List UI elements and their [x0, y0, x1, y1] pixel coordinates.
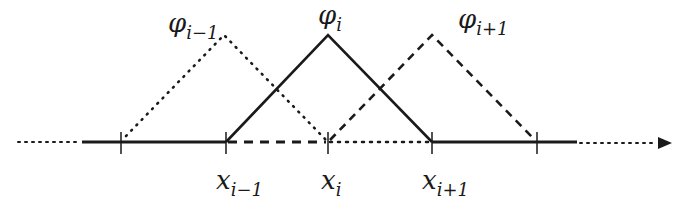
diagram-svg: φi−1 φi φi+1 xi−1 xi xi+1	[0, 0, 687, 212]
label-x-i-plus-1: xi+1	[422, 165, 469, 200]
phi-i-plus-1-curve	[330, 35, 535, 140]
label-phi-i: φi	[318, 0, 342, 35]
axis-arrow-icon	[658, 137, 672, 149]
hat-functions-diagram: φi−1 φi φi+1 xi−1 xi xi+1	[0, 0, 687, 212]
label-phi-i-minus-1: φi−1	[168, 8, 219, 43]
label-phi-i-plus-1: φi+1	[458, 4, 509, 39]
phi-i-curve	[226, 35, 432, 142]
phi-i-minus-1-curve	[126, 35, 326, 140]
label-x-i: xi	[321, 165, 341, 200]
label-x-i-minus-1: xi−1	[216, 165, 263, 200]
